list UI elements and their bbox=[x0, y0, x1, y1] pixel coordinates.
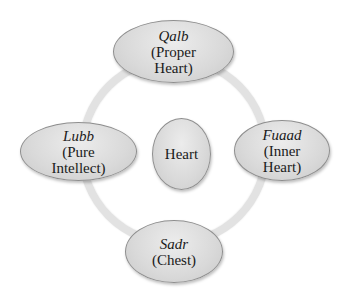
node-center-heart: Heart bbox=[152, 118, 211, 190]
node-meaning-line2: Heart) bbox=[263, 159, 301, 175]
node-meaning-line1: (Proper bbox=[151, 44, 196, 60]
center-label: Heart bbox=[165, 146, 198, 162]
node-meaning-line1: (Chest) bbox=[152, 252, 196, 268]
node-qalb: Qalb (Proper Heart) bbox=[113, 20, 234, 83]
node-term: Sadr bbox=[160, 236, 188, 252]
heart-cycle-diagram: Qalb (Proper Heart) Fuaad (Inner Heart) … bbox=[0, 0, 346, 291]
node-term: Lubb bbox=[63, 128, 94, 144]
node-term: Fuaad bbox=[262, 127, 301, 143]
node-meaning-line1: (Inner bbox=[264, 143, 301, 159]
node-fuaad: Fuaad (Inner Heart) bbox=[234, 120, 330, 181]
node-meaning-line1: (Pure bbox=[62, 144, 95, 160]
node-meaning-line2: Intellect) bbox=[51, 160, 105, 176]
node-sadr: Sadr (Chest) bbox=[125, 220, 223, 283]
node-meaning-line2: Heart) bbox=[154, 60, 192, 76]
node-term: Qalb bbox=[159, 28, 189, 44]
node-lubb: Lubb (Pure Intellect) bbox=[20, 122, 137, 181]
